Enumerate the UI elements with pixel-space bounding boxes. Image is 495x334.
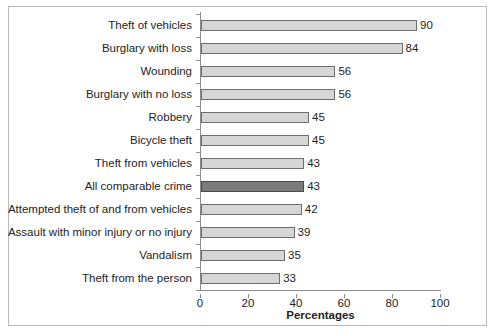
category-label: Burglary with loss bbox=[102, 37, 192, 60]
y-axis-tick bbox=[196, 290, 200, 291]
x-axis-title: Percentages bbox=[200, 309, 441, 321]
category-label: Theft of vehicles bbox=[108, 14, 192, 37]
chart-row: Burglary with loss84 bbox=[200, 37, 440, 60]
y-axis-tick bbox=[196, 152, 200, 153]
bar-value-label: 90 bbox=[420, 14, 433, 37]
bar-value-label: 45 bbox=[312, 129, 325, 152]
bar bbox=[201, 43, 403, 54]
x-axis-tick-label: 100 bbox=[430, 297, 449, 309]
chart-row: Theft of vehicles90 bbox=[200, 14, 440, 37]
bar-value-label: 56 bbox=[338, 83, 351, 106]
bar-value-label: 39 bbox=[298, 221, 311, 244]
x-axis-tick-label: 60 bbox=[338, 297, 351, 309]
bar-value-label: 33 bbox=[283, 267, 296, 290]
y-axis-tick bbox=[196, 60, 200, 61]
x-axis-tick-label: 0 bbox=[197, 297, 203, 309]
bar-chart: Theft of vehicles90Burglary with loss84W… bbox=[0, 0, 495, 334]
chart-row: All comparable crime43 bbox=[200, 175, 440, 198]
bar bbox=[201, 135, 309, 146]
y-axis-tick bbox=[196, 37, 200, 38]
bar-value-label: 84 bbox=[406, 37, 419, 60]
y-axis-tick bbox=[196, 175, 200, 176]
chart-row: Theft from vehicles43 bbox=[200, 152, 440, 175]
y-axis-tick bbox=[196, 267, 200, 268]
category-label: All comparable crime bbox=[85, 175, 192, 198]
y-axis-tick bbox=[196, 129, 200, 130]
bar-value-label: 45 bbox=[312, 106, 325, 129]
y-axis-tick bbox=[196, 83, 200, 84]
y-axis-tick bbox=[196, 106, 200, 107]
bar-value-label: 43 bbox=[307, 175, 320, 198]
y-axis-tick bbox=[196, 198, 200, 199]
bar bbox=[201, 273, 280, 284]
category-label: Theft from vehicles bbox=[95, 152, 192, 175]
category-label: Wounding bbox=[140, 60, 192, 83]
y-axis-tick bbox=[196, 14, 200, 15]
chart-row: Attempted theft of and from vehicles42 bbox=[200, 198, 440, 221]
bar bbox=[201, 227, 295, 238]
category-label: Vandalism bbox=[139, 244, 192, 267]
y-axis-tick bbox=[196, 244, 200, 245]
bar-value-label: 35 bbox=[288, 244, 301, 267]
bar-value-label: 42 bbox=[305, 198, 318, 221]
bar bbox=[201, 181, 304, 192]
bar bbox=[201, 204, 302, 215]
chart-row: Bicycle theft45 bbox=[200, 129, 440, 152]
x-axis-tick-label: 40 bbox=[290, 297, 303, 309]
chart-row: Burglary with no loss56 bbox=[200, 83, 440, 106]
category-label: Attempted theft of and from vehicles bbox=[8, 198, 192, 221]
x-axis-tick-label: 20 bbox=[242, 297, 255, 309]
chart-row: Theft from the person33 bbox=[200, 267, 440, 290]
chart-row: Assault with minor injury or no injury39 bbox=[200, 221, 440, 244]
category-label: Assault with minor injury or no injury bbox=[8, 221, 192, 244]
bar bbox=[201, 112, 309, 123]
bar bbox=[201, 66, 335, 77]
bar bbox=[201, 158, 304, 169]
category-label: Theft from the person bbox=[82, 267, 192, 290]
bar bbox=[201, 250, 285, 261]
y-axis-tick bbox=[196, 221, 200, 222]
x-axis-line bbox=[200, 290, 441, 291]
chart-row: Robbery45 bbox=[200, 106, 440, 129]
bar bbox=[201, 89, 335, 100]
chart-row: Vandalism35 bbox=[200, 244, 440, 267]
category-label: Burglary with no loss bbox=[86, 83, 192, 106]
chart-row: Wounding56 bbox=[200, 60, 440, 83]
x-axis-tick-label: 80 bbox=[386, 297, 399, 309]
plot-area: Theft of vehicles90Burglary with loss84W… bbox=[200, 14, 440, 290]
bar-value-label: 43 bbox=[307, 152, 320, 175]
category-label: Robbery bbox=[149, 106, 192, 129]
bar bbox=[201, 20, 417, 31]
bar-value-label: 56 bbox=[338, 60, 351, 83]
category-label: Bicycle theft bbox=[130, 129, 192, 152]
